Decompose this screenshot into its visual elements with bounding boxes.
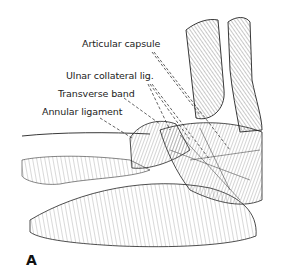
label-articular-capsule: Articular capsule (82, 38, 160, 49)
panel-letter: A (26, 252, 37, 268)
humerus-shaft (186, 18, 262, 133)
label-transverse-band: Transverse band (58, 88, 135, 99)
label-ulnar-collateral-lig: Ulnar collateral lig. (66, 70, 154, 81)
label-annular-ligament: Annular ligament (42, 106, 122, 117)
